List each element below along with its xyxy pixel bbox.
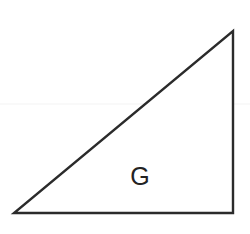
triangle-diagram: G (0, 0, 250, 234)
triangle-label-g: G (130, 162, 149, 190)
figure-canvas: G (0, 0, 250, 234)
